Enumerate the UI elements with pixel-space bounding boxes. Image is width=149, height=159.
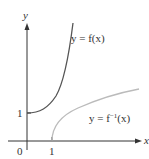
x-tick-label-1: 1	[49, 145, 55, 157]
function-inverse-diagram: y x 0 1 1 y = f(x) y = f−1(x)	[0, 0, 149, 159]
curve-f-label: y = f(x)	[71, 32, 105, 45]
y-tick-label-1: 1	[17, 107, 23, 119]
curve-f-inverse-label-suffix: (x)	[117, 112, 130, 125]
curve-f-inverse-label-prefix: y = f	[89, 112, 110, 124]
curve-f-label-text: y = f(x)	[71, 32, 105, 45]
curve-f-inverse-label: y = f−1(x)	[89, 112, 130, 125]
x-axis-arrow	[135, 139, 142, 144]
origin-label: 0	[17, 145, 23, 157]
curve-f	[27, 23, 73, 113]
x-axis-label: x	[143, 134, 149, 146]
y-axis-arrow	[25, 23, 30, 30]
y-axis-label: y	[22, 9, 28, 21]
